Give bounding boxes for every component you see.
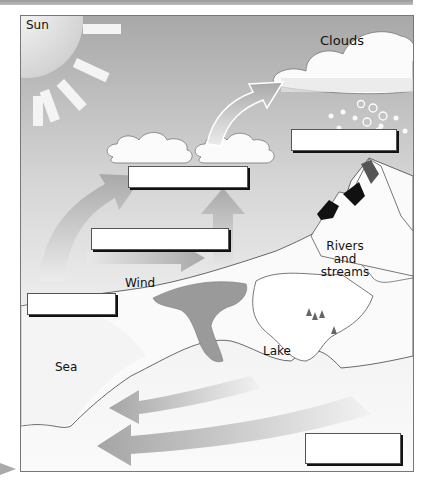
clouds-label: Clouds (320, 34, 364, 47)
transpiration-answer-box[interactable] (91, 228, 229, 250)
water-cycle-diagram: Sun Clouds Wind Rivers and streams Lake … (20, 15, 414, 472)
wind-label: Wind (125, 277, 155, 290)
sun-label: Sun (26, 19, 49, 32)
precipitation-answer-box[interactable] (291, 129, 397, 151)
evaporation-answer-box[interactable] (27, 293, 116, 315)
rivers-label: Rivers and streams (320, 240, 370, 279)
lake-label: Lake (263, 345, 291, 358)
runoff-answer-box[interactable] (305, 433, 401, 464)
header-bar (0, 0, 413, 5)
sea-label: Sea (55, 361, 77, 374)
condensation-answer-box[interactable] (128, 166, 248, 188)
arrow-pointer-icon (0, 463, 16, 475)
